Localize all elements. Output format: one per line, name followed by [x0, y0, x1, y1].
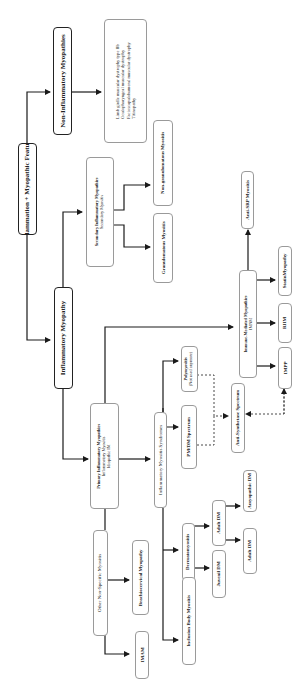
non-granulomatous-box: Non-granulomatous Myositis: [153, 120, 173, 206]
other-nonspecific-label: Other Non-Specific Myositis: [98, 554, 104, 612]
riim-label: RIIM: [282, 317, 288, 329]
primary-label: Primary Inflammatory Myopathies Inflamma…: [97, 424, 112, 489]
granulomatous-label: Granulomatous Myositis: [160, 222, 166, 275]
pm-dm-spectrum-box: PM/DM Spectrum: [181, 405, 197, 469]
inclusion-body-label: Inclusion Body Myositis: [186, 595, 192, 646]
granulomatous-box: Granulomatous Myositis: [153, 213, 173, 283]
adult-dm-box: Adult DM: [243, 528, 257, 574]
imnm-label: Immune-Mediated Myopathies IMNM: [243, 296, 253, 353]
adult-dm-label: Adult DM: [247, 540, 253, 562]
inflammatory-myopathy-box: Inflammatory Myopathy: [54, 287, 73, 389]
imam-label: IMAM: [139, 648, 145, 663]
amyopathic-dm-box: Amyopathic DM: [243, 470, 257, 512]
other-nonspecific-box: Other Non-Specific Myositis: [93, 530, 108, 636]
myopathy-classification-diagram: Inflammation + Myopathic Features Non-In…: [0, 0, 306, 690]
polymyositis-box: Polymyositis (Not used anymore): [181, 346, 198, 392]
connector-lines: [0, 0, 306, 690]
anti-synthetase-label: Anti-Synthetase Spectrum: [235, 390, 241, 446]
anti-srp-label: Anti-SRP Myositis: [245, 180, 251, 220]
anti-synthetase-box: Anti-Synthetase Spectrum: [231, 383, 245, 453]
ims-label: Inflammatory Myositis Syndromes: [158, 425, 164, 495]
statin-myopathy-box: StatinMyopathy: [278, 246, 292, 296]
non-inflammatory-label: Non-Inflammatory Myopathies: [58, 34, 66, 128]
impp-box: IMPP: [278, 347, 292, 389]
example-item: Titinopathy: [131, 43, 136, 120]
dermatomyositis-box: Dermatomyositis: [182, 523, 195, 581]
pm-dm-label: PM/DM Spectrum: [186, 417, 192, 457]
juvenil-dm-label: Juvenil DM: [216, 561, 222, 586]
non-granulomatous-label: Non-granulomatous Myositis: [160, 132, 166, 194]
examples-list: Limb girdle muscular dystrophy type IIb …: [115, 43, 136, 120]
amyopathic-dm-label: Amyopathic DM: [247, 473, 253, 509]
root-label: Inflammation + Myopathic Features: [23, 143, 31, 235]
dermatomyositis-label: Dermatomyositis: [186, 534, 192, 570]
imnm-box: Immune-Mediated Myopathies IMNM: [239, 270, 257, 378]
secondary-label: Secondary Inflammatory Myopathies Second…: [95, 178, 105, 247]
statin-myopathy-label: StatinMyopathy: [282, 254, 288, 289]
anti-srp-box: Anti-SRP Myositis: [241, 171, 254, 229]
primary-myopathies-box: Primary Inflammatory Myopathies Inflamma…: [90, 403, 119, 509]
brachiocervical-box: Brachiocervical Myopathy: [132, 540, 149, 615]
impp-label: IMPP: [282, 362, 288, 375]
non-inflammatory-box: Non-Inflammatory Myopathies: [53, 27, 72, 135]
non-inflammatory-examples-box: Limb girdle muscular dystrophy type IIb …: [104, 19, 147, 143]
inflammatory-myopathy-label: Inflammatory Myopathy: [59, 301, 67, 375]
adult-dm-parent-box: Adult DM: [212, 500, 226, 546]
adult-dm-parent-label: Adult DM: [216, 512, 222, 534]
inflammatory-myositis-syndromes-box: Inflammatory Myositis Syndromes: [154, 412, 167, 508]
root-box: Inflammation + Myopathic Features: [18, 143, 37, 235]
riim-box: RIIM: [278, 303, 292, 343]
inclusion-body-box: Inclusion Body Myositis: [182, 577, 196, 665]
juvenil-dm-box: Juvenil DM: [212, 550, 226, 598]
example-item: Oculopharyngeal muscular dystrophy: [120, 43, 125, 120]
imam-box: IMAM: [135, 631, 149, 679]
polymyositis-label: Polymyositis (Not used anymore): [185, 352, 195, 386]
brachiocervical-label: Brachiocervical Myopathy: [138, 549, 144, 606]
secondary-myopathies-box: Secondary Inflammatory Myopathies Second…: [86, 157, 114, 267]
